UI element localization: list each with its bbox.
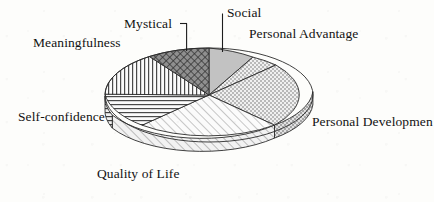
slice-label-personal-advantage: Personal Advantage xyxy=(249,27,358,41)
slice-label-meaningfulness: Meaningfulness xyxy=(33,36,121,50)
leader-lines xyxy=(180,14,223,53)
slice-label-mystical: Mystical xyxy=(124,17,172,31)
pie-chart: Social Personal Advantage Personal Devel… xyxy=(0,0,434,202)
pie-slices xyxy=(105,48,299,136)
slice-label-self-confidence: Self-confidence xyxy=(18,110,105,124)
pie-chart-graphic xyxy=(0,0,434,202)
slice-label-personal-development: Personal Developmen xyxy=(312,115,433,129)
slice-label-social: Social xyxy=(227,6,261,20)
slice-label-quality-of-life: Quality of Life xyxy=(97,167,179,181)
